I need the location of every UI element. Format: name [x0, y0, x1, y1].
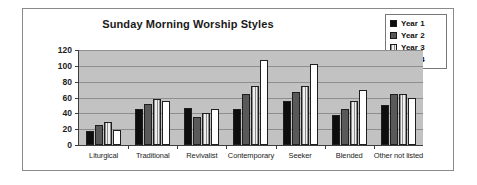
bar[interactable]: [359, 90, 367, 145]
bar[interactable]: [86, 131, 94, 145]
bar-group: [325, 50, 374, 145]
bar[interactable]: [113, 130, 121, 145]
bar[interactable]: [399, 94, 407, 145]
y-axis-label: 20: [63, 124, 72, 134]
x-axis-tick: [226, 145, 227, 149]
x-axis-category-label: Revivalist: [186, 151, 217, 160]
bar[interactable]: [95, 125, 103, 145]
bar-group: [128, 50, 177, 145]
bar[interactable]: [144, 104, 152, 145]
bar[interactable]: [242, 94, 250, 145]
y-axis-label: 120: [58, 45, 72, 55]
x-axis-tick: [276, 145, 277, 149]
x-axis-category-label: Seeker: [289, 151, 312, 160]
bar[interactable]: [211, 109, 219, 145]
plot-area: 020406080100120LiturgicalTraditionalRevi…: [78, 50, 423, 146]
bar[interactable]: [233, 109, 241, 145]
x-axis-tick: [128, 145, 129, 149]
x-axis-tick: [177, 145, 178, 149]
bar[interactable]: [283, 101, 291, 145]
bar[interactable]: [310, 64, 318, 145]
bar[interactable]: [202, 113, 210, 145]
x-axis-category-label: Traditional: [136, 151, 170, 160]
chart-frame: Sunday Morning Worship Styles Year 1 Yea…: [22, 8, 454, 171]
bar[interactable]: [350, 101, 358, 145]
bar[interactable]: [301, 86, 309, 145]
bar[interactable]: [193, 117, 201, 146]
bar-group: [226, 50, 275, 145]
bar[interactable]: [408, 98, 416, 145]
bar-group: [374, 50, 423, 145]
x-axis-tick: [374, 145, 375, 149]
bar-group: [276, 50, 325, 145]
bar-group: [79, 50, 128, 145]
y-axis-label: 0: [67, 140, 72, 150]
bar[interactable]: [260, 60, 268, 145]
bar[interactable]: [162, 101, 170, 145]
bar-group: [177, 50, 226, 145]
x-axis-category-label: Other not listed: [374, 151, 423, 160]
y-axis-label: 40: [63, 108, 72, 118]
bar[interactable]: [184, 108, 192, 145]
bar[interactable]: [332, 115, 340, 145]
bar[interactable]: [104, 122, 112, 145]
bar[interactable]: [381, 105, 389, 145]
bar[interactable]: [251, 86, 259, 145]
x-axis-category-label: Blended: [336, 151, 363, 160]
plot-wrapper: 020406080100120LiturgicalTraditionalRevi…: [23, 9, 453, 170]
bar[interactable]: [135, 109, 143, 145]
x-axis-category-label: Contemporary: [228, 151, 274, 160]
y-axis-label: 100: [58, 61, 72, 71]
y-axis-label: 60: [63, 93, 72, 103]
x-axis-category-label: Liturgical: [89, 151, 118, 160]
bar[interactable]: [341, 109, 349, 145]
y-axis-label: 80: [63, 77, 72, 87]
bar[interactable]: [390, 94, 398, 145]
bar[interactable]: [153, 99, 161, 145]
x-axis-tick: [325, 145, 326, 149]
y-axis-tick: [75, 145, 79, 146]
bar[interactable]: [292, 92, 300, 145]
